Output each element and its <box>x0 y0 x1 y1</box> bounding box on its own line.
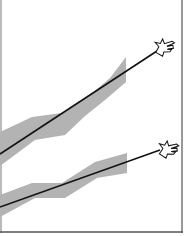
lower-trend-line <box>0 150 160 207</box>
pointing-hand-icon <box>154 37 177 57</box>
pointing-hand-icon <box>158 140 180 159</box>
diagram-canvas <box>0 0 185 236</box>
trend-diagram <box>0 0 185 236</box>
upper-trend-line <box>0 49 160 154</box>
upper-uncertainty-band <box>0 57 126 166</box>
